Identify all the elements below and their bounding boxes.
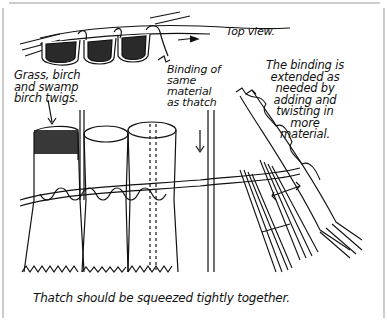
thatch-drawing: [0, 0, 387, 320]
label-grass-material: Grass, birch and swamp birch twigs.: [14, 70, 80, 105]
illustration-frame: [0, 0, 387, 320]
label-binding-same-material: Binding of same material as thatch: [167, 64, 221, 108]
label-binding-extended: The binding is extended as needed by add…: [266, 60, 344, 141]
label-top-view: Top view.: [226, 26, 275, 37]
top-view-drawing: [20, 12, 290, 65]
caption-squeeze-thatch: Thatch should be squeezed tightly togeth…: [33, 292, 290, 304]
